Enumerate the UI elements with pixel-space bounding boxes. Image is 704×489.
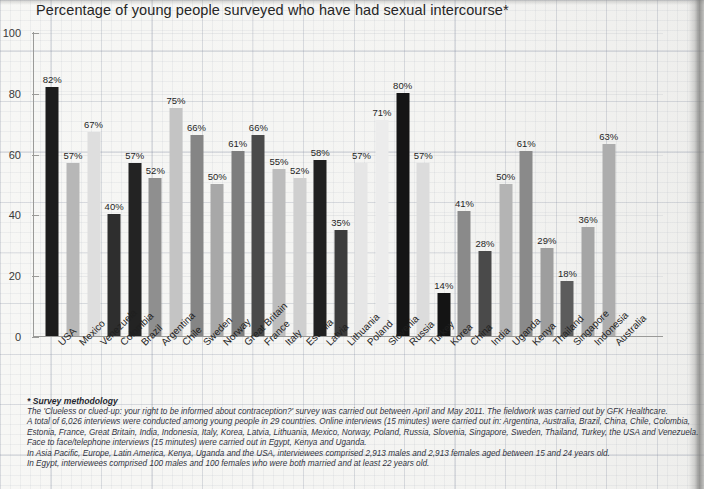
footnote-line: The 'Clueless or clued-up: your right to… xyxy=(27,407,682,417)
y-axis-tick-label: 100 xyxy=(0,27,21,39)
bar-value-label: 66% xyxy=(187,122,206,133)
bar-chart-plot-area: 020406080100 82%57%67%40%57%52%75%66%50%… xyxy=(33,32,663,337)
bar-slot: 66% xyxy=(248,32,269,336)
bar-value-label: 57% xyxy=(352,150,371,161)
bar-value-label: 40% xyxy=(105,201,124,212)
bar-slot: 18% xyxy=(557,32,578,336)
bar-value-label: 52% xyxy=(290,165,309,176)
bar xyxy=(231,151,244,336)
bar xyxy=(211,184,224,336)
bar-value-label: 52% xyxy=(146,165,165,176)
bar xyxy=(376,120,389,336)
bar-value-label: 67% xyxy=(84,119,103,130)
bar-slot: 41% xyxy=(454,32,475,336)
page-right-edge-shadow xyxy=(688,0,704,489)
bar-slot: 61% xyxy=(227,32,248,336)
bar xyxy=(169,108,182,336)
footnote-line: Estonia, France, Great Britain, India, I… xyxy=(27,428,682,438)
bar-value-label: 61% xyxy=(228,138,247,149)
y-axis-tick-label: 0 xyxy=(0,331,21,343)
bar xyxy=(293,178,306,336)
bar-value-label: 63% xyxy=(599,131,618,142)
bar-value-label: 14% xyxy=(434,280,453,291)
bar-slot: 14% xyxy=(434,32,455,336)
bar-value-label: 71% xyxy=(372,107,391,118)
bar xyxy=(499,184,512,336)
bar-value-label: 55% xyxy=(269,156,288,167)
y-axis-tick-label: 40 xyxy=(0,209,21,221)
footnote-title: * Survey methodology xyxy=(27,396,682,406)
bar-value-label: 75% xyxy=(166,95,185,106)
bar-value-label: 28% xyxy=(476,238,495,249)
bar-slot: 58% xyxy=(310,32,331,336)
bar-slot: 57% xyxy=(124,32,145,336)
bar-slot: 28% xyxy=(475,32,496,336)
bar-slot: 36% xyxy=(578,32,599,336)
bar-slot: 55% xyxy=(269,32,290,336)
bar xyxy=(314,160,327,336)
bar-value-label: 36% xyxy=(579,214,598,225)
bar-slot: 40% xyxy=(104,32,125,336)
bar xyxy=(520,151,533,336)
bar-value-label: 41% xyxy=(455,198,474,209)
bar xyxy=(458,211,471,336)
footnote-line: In Asia Pacific, Europe, Latin America, … xyxy=(27,449,682,459)
bar xyxy=(417,163,430,336)
bar-slot: 71% xyxy=(372,32,393,336)
y-axis-tick-label: 60 xyxy=(0,149,21,161)
y-axis-tick xyxy=(32,337,39,338)
footnote-line: A total of 6,026 interviews were conduct… xyxy=(27,417,682,427)
bar-slot: 57% xyxy=(63,32,84,336)
bar xyxy=(396,93,409,336)
bar-slot: 52% xyxy=(289,32,310,336)
bar-series: 82%57%67%40%57%52%75%66%50%61%66%55%52%5… xyxy=(34,32,663,336)
bar-value-label: 18% xyxy=(558,268,577,279)
bar-slot: 82% xyxy=(42,32,63,336)
chart-page: Percentage of young people surveyed who … xyxy=(0,0,704,489)
bar-slot: 29% xyxy=(537,32,558,336)
bar-value-label: 80% xyxy=(393,80,412,91)
bar-slot: 57% xyxy=(413,32,434,336)
bar-value-label: 50% xyxy=(208,171,227,182)
bar-slot: 75% xyxy=(166,32,187,336)
bar xyxy=(87,132,100,336)
bar-slot: 57% xyxy=(351,32,372,336)
bar xyxy=(46,87,59,336)
bar-slot: 61% xyxy=(516,32,537,336)
bar-slot: 50% xyxy=(207,32,228,336)
bar-value-label: 57% xyxy=(414,150,433,161)
bar-slot: 63% xyxy=(598,32,619,336)
bar xyxy=(66,163,79,336)
bar-slot: 67% xyxy=(83,32,104,336)
bar-slot: 66% xyxy=(186,32,207,336)
bar xyxy=(334,230,347,336)
footnote-body: The 'Clueless or clued-up: your right to… xyxy=(27,407,682,469)
bar-value-label: 66% xyxy=(249,122,268,133)
bar-value-label: 58% xyxy=(311,147,330,158)
bar xyxy=(190,135,203,336)
bar-slot: 52% xyxy=(145,32,166,336)
bar xyxy=(355,163,368,336)
bar xyxy=(252,135,265,336)
bar-slot: 80% xyxy=(392,32,413,336)
footnote: * Survey methodology The 'Clueless or cl… xyxy=(27,396,682,469)
bar-slot: 50% xyxy=(495,32,516,336)
footnote-line: In Egypt, interviewees comprised 100 mal… xyxy=(27,459,682,469)
bar-value-label: 61% xyxy=(517,138,536,149)
bar-value-label: 50% xyxy=(496,171,515,182)
page-title: Percentage of young people surveyed who … xyxy=(36,2,509,18)
footnote-line: Face to face/telephone interviews (15 mi… xyxy=(27,438,682,448)
y-axis-tick-label: 80 xyxy=(0,88,21,100)
bar-slot: 35% xyxy=(331,32,352,336)
bar-value-label: 57% xyxy=(125,150,144,161)
bar-value-label: 82% xyxy=(43,74,62,85)
bar-value-label: 35% xyxy=(331,217,350,228)
y-axis-tick-label: 20 xyxy=(0,270,21,282)
bar-value-label: 57% xyxy=(63,150,82,161)
bar-value-label: 29% xyxy=(537,235,556,246)
